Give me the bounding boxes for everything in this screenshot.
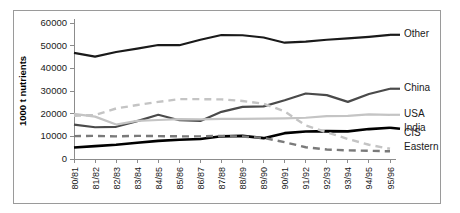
x-tick-label: 81/82 <box>91 167 101 190</box>
legend-label-usa: USA <box>404 108 425 119</box>
y-axis-title: 1000 t nutrients <box>17 56 28 126</box>
chart-legend-group: OtherChinaUSAIndiaCISEastern Europe <box>390 28 440 151</box>
chart-border-frame: 1000 t nutrients 01000020000300004000050… <box>13 10 441 204</box>
x-tick-label: 90/91 <box>280 167 290 190</box>
y-tick-label: 60000 <box>41 17 67 28</box>
x-tick-label: 91/92 <box>301 167 311 190</box>
x-tick-label: 88/89 <box>238 167 248 190</box>
data-series-group <box>74 35 390 151</box>
x-tick-label: 84/85 <box>154 167 164 190</box>
legend-label-cis: CIS <box>404 127 421 138</box>
x-tick-label: 83/84 <box>133 167 143 190</box>
x-tick-label: 87/88 <box>217 167 227 190</box>
legend-label-china: China <box>404 82 431 93</box>
x-tick-label: 82/83 <box>112 167 122 190</box>
legend-connector-india <box>390 128 400 129</box>
x-tick-label: 80/81 <box>70 167 80 190</box>
x-tick-label: 89/90 <box>259 167 269 190</box>
x-tick-label: 85/86 <box>175 167 185 190</box>
x-tick-label: 93/94 <box>343 167 353 190</box>
legend-label-eastern-europe: Eastern Europe <box>404 141 440 152</box>
series-line-other <box>74 35 390 57</box>
x-tick-label: 92/93 <box>322 167 332 190</box>
y-axis-group: 0100002000030000400005000060000 <box>41 17 74 164</box>
y-tick-label: 50000 <box>41 40 67 51</box>
x-tick-label: 94/95 <box>364 167 374 190</box>
y-tick-label: 30000 <box>41 85 67 96</box>
x-tick-label: 95/96 <box>386 167 396 190</box>
y-axis-title-group: 1000 t nutrients <box>17 56 28 126</box>
legend-label-other: Other <box>404 28 430 39</box>
line-chart-svg: 1000 t nutrients 01000020000300004000050… <box>14 11 440 203</box>
y-tick-label: 40000 <box>41 62 67 73</box>
chart-figure: 1000 t nutrients 01000020000300004000050… <box>0 0 460 213</box>
y-tick-label: 0 <box>62 153 67 164</box>
y-tick-label: 10000 <box>41 130 67 141</box>
series-line-usa <box>74 114 390 125</box>
x-tick-label: 86/87 <box>196 167 206 190</box>
y-tick-label: 20000 <box>41 108 67 119</box>
x-axis-group: 80/8181/8282/8383/8484/8585/8686/8787/88… <box>70 159 397 190</box>
